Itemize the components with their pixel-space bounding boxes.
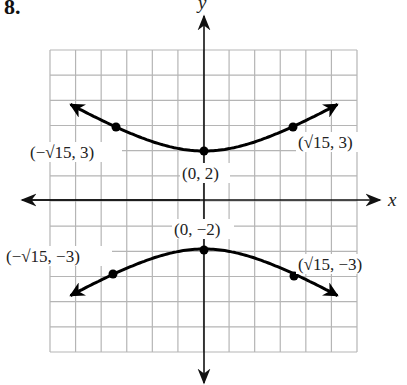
label-neg-sqrt15-neg3: (−√15, −3): [6, 247, 80, 266]
label-0-2: (0, 2): [182, 164, 219, 183]
label-sqrt15-3: (√15, 3): [298, 133, 353, 152]
point-0-neg2: [200, 246, 209, 255]
hyperbola-graph: x y (−√15, 3) (√15, 3) (0, 2) (0, −2) (−…: [0, 0, 407, 385]
point-neg-sqrt15-neg3: [109, 270, 118, 279]
label-sqrt15-neg3: (√15, −3): [298, 255, 362, 274]
y-axis-label: y: [196, 0, 207, 13]
point-0-2: [200, 147, 209, 156]
axes: x y: [22, 0, 397, 383]
label-0-neg2: (0, −2): [174, 220, 220, 239]
point-neg-sqrt15-3: [112, 123, 121, 132]
point-labels: (−√15, 3) (√15, 3) (0, 2) (0, −2) (−√15,…: [4, 132, 386, 274]
x-axis-label: x: [387, 189, 397, 210]
point-sqrt15-3: [289, 123, 298, 132]
label-neg-sqrt15-3: (−√15, 3): [30, 143, 94, 162]
